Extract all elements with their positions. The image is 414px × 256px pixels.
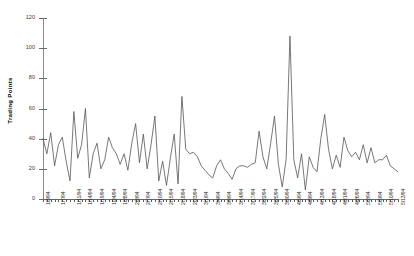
x-tick (55, 199, 56, 202)
x-tick (317, 199, 318, 202)
x-tick (74, 199, 75, 202)
y-tick-label: 0 (13, 195, 35, 201)
x-tick (313, 199, 314, 202)
plot-area: 020406080100120 1/3/941/7/941/11/941/14/… (43, 18, 398, 199)
y-axis-title-text: Trading Points (6, 77, 13, 123)
x-tick (209, 199, 210, 202)
x-tick (128, 199, 129, 202)
x-tick (43, 199, 44, 202)
x-tick-label: 5/13/94 (400, 189, 406, 205)
x-tick (155, 199, 156, 202)
series-line (43, 18, 398, 199)
x-tick (232, 199, 233, 202)
x-tick (329, 199, 330, 202)
trading-points-polyline (43, 36, 398, 190)
x-tick (66, 199, 67, 202)
x-tick (290, 199, 291, 202)
y-tick-label: 120 (13, 14, 35, 20)
x-tick (398, 199, 399, 202)
x-tick (271, 199, 272, 202)
x-tick (294, 199, 295, 202)
x-tick (132, 199, 133, 202)
x-tick (97, 199, 98, 202)
y-tick-label: 60 (13, 105, 35, 111)
x-tick (352, 199, 353, 202)
x-tick (109, 199, 110, 202)
x-tick (371, 199, 372, 202)
y-tick-label: 100 (13, 44, 35, 50)
x-tick (236, 199, 237, 202)
x-tick (190, 199, 191, 202)
chart-page: Trading Points 020406080100120 1/3/941/7… (0, 0, 414, 256)
x-tick (394, 199, 395, 202)
y-tick-label: 80 (13, 74, 35, 80)
x-tick (93, 199, 94, 202)
x-tick (340, 199, 341, 202)
y-tick-label: 40 (13, 135, 35, 141)
x-tick (213, 199, 214, 202)
x-tick (375, 199, 376, 202)
x-tick (70, 199, 71, 202)
x-tick (248, 199, 249, 202)
y-tick-label: 20 (13, 165, 35, 171)
x-tick (259, 199, 260, 202)
x-tick (178, 199, 179, 202)
x-tick (174, 199, 175, 202)
x-tick (151, 199, 152, 202)
